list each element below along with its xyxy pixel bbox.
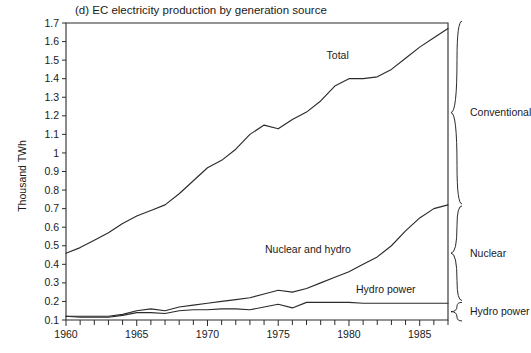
annotation-hydro-power: Hydro power: [356, 283, 416, 295]
chart-background: [0, 0, 531, 353]
y-tick-label: 1.2: [44, 109, 59, 121]
y-tick-label: 0.7: [44, 202, 59, 214]
figure-panel: (d) EC electricity production by generat…: [0, 0, 531, 353]
y-tick-label: 0.8: [44, 184, 59, 196]
chart-title: (d) EC electricity production by generat…: [75, 4, 327, 16]
y-tick-label: 0.9: [44, 165, 59, 177]
y-tick-label: 0.5: [44, 239, 59, 251]
x-tick-label: 1960: [54, 328, 78, 340]
y-axis-title: Thousand TWh: [16, 140, 28, 212]
y-tick-label: 0.6: [44, 221, 59, 233]
y-tick-label: 0.2: [44, 295, 59, 307]
y-tick-label: 0.4: [44, 258, 59, 270]
line-chart: (d) EC electricity production by generat…: [0, 0, 531, 353]
y-tick-label: 1.1: [44, 128, 59, 140]
bracket-label-conventional: Conventional: [470, 106, 531, 118]
y-tick-label: 0.1: [44, 314, 59, 326]
y-tick-label: 1.7: [44, 17, 59, 29]
y-tick-label: 1.6: [44, 35, 59, 47]
y-tick-label: 1: [53, 147, 59, 159]
x-tick-label: 1985: [408, 328, 432, 340]
x-tick-label: 1975: [267, 328, 291, 340]
y-tick-label: 1.4: [44, 72, 59, 84]
bracket-label-hydro-power: Hydro power: [470, 305, 530, 317]
x-tick-label: 1980: [337, 328, 361, 340]
y-tick-label: 1.5: [44, 54, 59, 66]
y-tick-label: 1.3: [44, 91, 59, 103]
annotation-nuclear-and-hydro: Nuclear and hydro: [265, 243, 351, 255]
annotation-total: Total: [327, 49, 349, 61]
x-tick-label: 1970: [196, 328, 220, 340]
x-tick-label: 1965: [125, 328, 149, 340]
y-tick-label: 0.3: [44, 276, 59, 288]
bracket-label-nuclear: Nuclear: [470, 247, 507, 259]
